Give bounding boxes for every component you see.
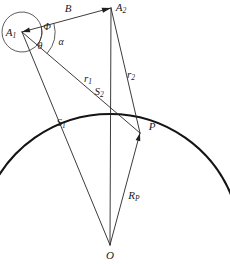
angle-label-alpha: α xyxy=(58,36,64,47)
segment-label-S2: S2 xyxy=(94,85,104,99)
angle-label-phi: Φ xyxy=(43,21,51,32)
planet-surface-arc xyxy=(0,114,230,200)
point-label-A2: A2 xyxy=(115,1,127,15)
segment-S2 xyxy=(110,8,111,245)
segment-label-S1: S1 xyxy=(56,116,65,130)
geometry-diagram: A1 A2 P O B r1 r2 S1 S2 RP Φ α θ xyxy=(0,0,230,264)
arrowhead-A2 xyxy=(102,8,111,13)
segment-label-r1: r1 xyxy=(84,72,92,86)
segment-label-RP: RP xyxy=(127,189,140,203)
arrowhead-P xyxy=(136,133,141,141)
arrowhead-A1 xyxy=(22,28,30,33)
angle-label-theta: θ xyxy=(38,40,43,51)
segment-label-B: B xyxy=(65,2,72,14)
diagram-canvas: A1 A2 P O B r1 r2 S1 S2 RP Φ α θ xyxy=(0,0,230,264)
segment-RP xyxy=(110,133,140,245)
segment-label-r2: r2 xyxy=(127,68,135,82)
point-label-P: P xyxy=(148,120,156,132)
point-label-O: O xyxy=(106,249,114,261)
point-label-A1: A1 xyxy=(5,26,16,40)
